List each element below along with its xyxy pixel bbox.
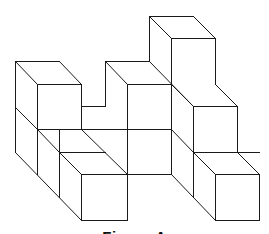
cube-edge [216,85,238,107]
cube-edge [60,62,82,85]
cube-edge [38,130,60,153]
cube-edge [238,153,260,175]
cube-edge [16,108,38,130]
cube-edge [150,17,172,39]
cube-edge [60,153,82,175]
cube-edge [172,85,194,107]
cube-stack-figure [0,0,269,234]
figure-caption: Figure A [0,228,269,234]
cube-edge [16,153,82,221]
cube-edge [194,153,216,175]
cube-edge [106,62,128,85]
cube-edge [194,17,216,39]
cube-edge [16,62,38,85]
cube-edge [172,130,194,153]
